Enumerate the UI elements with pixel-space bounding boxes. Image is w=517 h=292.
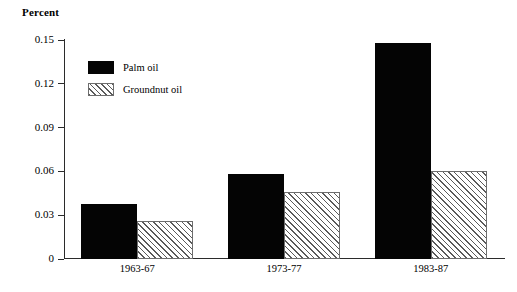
chart-legend: Palm oil Groundnut oil [88, 58, 228, 102]
bar-groundnut-oil-1963-67 [137, 221, 193, 259]
y-axis-tick-label: 0.03 [35, 207, 54, 222]
y-axis-tick-label: 0.15 [35, 32, 54, 47]
legend-swatch-groundnut-oil [88, 83, 114, 96]
bar-chart: Percent 00.030.060.090.120.15 1963-67197… [0, 0, 517, 292]
bar-palm-oil-1963-67 [81, 204, 137, 259]
y-axis-title: Percent [22, 6, 59, 18]
bar-groundnut-oil-1983-87 [431, 171, 487, 259]
legend-label-groundnut-oil: Groundnut oil [123, 84, 182, 95]
y-axis-tick-label: 0.09 [35, 120, 54, 135]
x-axis-label: 1983-87 [413, 263, 448, 274]
bar-palm-oil-1983-87 [375, 43, 431, 259]
legend-swatch-palm-oil [88, 61, 114, 74]
x-axis-label: 1973-77 [267, 263, 302, 274]
legend-item-groundnut-oil: Groundnut oil [88, 80, 228, 99]
x-axis-label: 1963-67 [120, 263, 155, 274]
bar-palm-oil-1973-77 [228, 174, 284, 259]
y-axis-tick-label: 0.06 [35, 163, 54, 178]
y-axis-tick-label: 0.12 [35, 76, 54, 91]
legend-label-palm-oil: Palm oil [123, 62, 158, 73]
legend-item-palm-oil: Palm oil [88, 58, 228, 77]
y-axis-tick-label: 0 [49, 251, 55, 266]
bar-groundnut-oil-1973-77 [284, 192, 340, 259]
